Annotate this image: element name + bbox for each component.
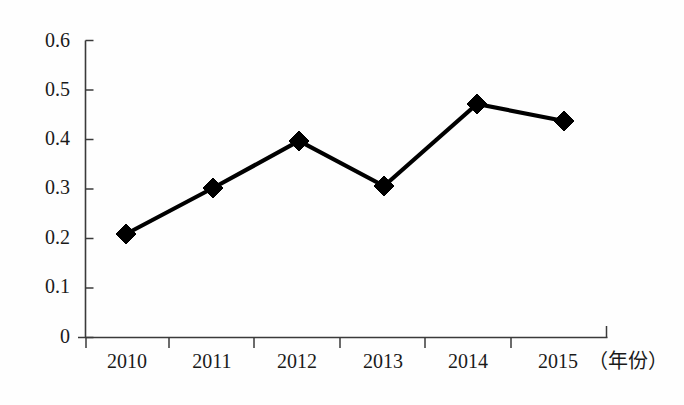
x-tick-label-2013: 2013	[363, 350, 403, 372]
x-tick-label-2012: 2012	[277, 350, 317, 372]
x-tick-label-2014: 2014	[448, 350, 488, 372]
y-tick-label-0.2: 0.2	[45, 226, 70, 248]
y-tick-label-0.5: 0.5	[45, 78, 70, 100]
chart-background	[0, 0, 684, 405]
x-tick-label-2011: 2011	[192, 350, 231, 372]
y-tick-label-0.6: 0.6	[45, 29, 70, 51]
y-tick-label-0: 0	[60, 325, 70, 347]
y-tick-label-0.4: 0.4	[45, 127, 70, 149]
x-tick-label-2010: 2010	[107, 350, 147, 372]
x-axis-unit-label: （年份）	[588, 350, 668, 372]
chart-page: 0.6 0.5 0.4 0.3 0.2 0.1 0 2010 2011 2012…	[0, 0, 684, 405]
y-tick-label-0.3: 0.3	[45, 176, 70, 198]
x-tick-label-2015: 2015	[538, 350, 578, 372]
y-tick-label-0.1: 0.1	[45, 275, 70, 297]
line-chart: 0.6 0.5 0.4 0.3 0.2 0.1 0 2010 2011 2012…	[0, 0, 684, 405]
